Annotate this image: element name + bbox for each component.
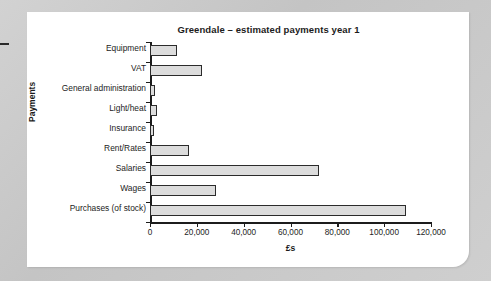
x-axis-tick xyxy=(197,222,198,227)
y-axis-tick-label: Insurance xyxy=(109,123,146,133)
x-axis-tick-label: 40,000 xyxy=(231,228,256,237)
bar xyxy=(150,185,216,196)
x-axis-tick xyxy=(150,222,151,227)
y-axis-tick xyxy=(146,82,150,83)
bar xyxy=(150,205,406,216)
x-axis-tick-label: 0 xyxy=(148,228,153,237)
x-axis-tick-label: 60,000 xyxy=(278,228,303,237)
x-axis-tick xyxy=(337,222,338,227)
y-axis-tick-label: Equipment xyxy=(106,43,146,53)
y-axis-tick xyxy=(146,202,150,203)
bar-row: Insurance xyxy=(150,122,431,142)
y-axis-tick xyxy=(146,42,150,43)
bar-row: Equipment xyxy=(150,42,431,62)
bar xyxy=(150,125,154,136)
bar-chart: Greendale – estimated payments year 1 Pa… xyxy=(0,0,491,281)
y-axis-tick xyxy=(146,162,150,163)
bar-row: Wages xyxy=(150,182,431,202)
bar xyxy=(150,45,177,56)
y-axis-tick-label: Purchases (of stock) xyxy=(70,203,146,213)
x-axis-tick-label: 120,000 xyxy=(416,228,446,237)
x-axis-tick xyxy=(291,222,292,227)
bar-row: Light/heat xyxy=(150,102,431,122)
x-axis-title: £s xyxy=(150,243,431,253)
y-axis-tick-label: Salaries xyxy=(116,163,146,173)
y-axis-tick xyxy=(146,142,150,143)
bar xyxy=(150,145,189,156)
bar xyxy=(150,85,155,96)
bar-row: VAT xyxy=(150,62,431,82)
y-axis-tick-label: Rent/Rates xyxy=(104,143,146,153)
bar-row: General administration xyxy=(150,82,431,102)
y-axis-tick-label: VAT xyxy=(131,63,146,73)
plot-area: EquipmentVATGeneral administrationLight/… xyxy=(150,42,431,223)
bar xyxy=(150,165,319,176)
y-axis-tick-label: General administration xyxy=(62,83,146,93)
y-axis-tick xyxy=(146,122,150,123)
y-axis-tick-label: Wages xyxy=(120,183,146,193)
x-axis-tick xyxy=(244,222,245,227)
y-axis-title: Payments xyxy=(27,82,37,122)
x-axis-tick xyxy=(431,222,432,227)
y-axis-tick xyxy=(146,102,150,103)
x-axis-tick-label: 100,000 xyxy=(369,228,399,237)
y-axis-tick-label: Light/heat xyxy=(109,103,146,113)
chart-title: Greendale – estimated payments year 1 xyxy=(0,24,491,35)
bar xyxy=(150,65,202,76)
bar-row: Salaries xyxy=(150,162,431,182)
bar-row: Rent/Rates xyxy=(150,142,431,162)
bar xyxy=(150,105,157,116)
y-axis-tick xyxy=(146,62,150,63)
x-axis-tick-label: 20,000 xyxy=(184,228,209,237)
bar-row: Purchases (of stock) xyxy=(150,202,431,222)
x-axis-tick xyxy=(384,222,385,227)
y-axis-tick xyxy=(146,182,150,183)
x-axis-tick-label: 80,000 xyxy=(325,228,350,237)
